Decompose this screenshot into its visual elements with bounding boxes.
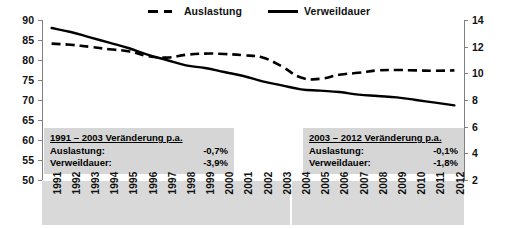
x-axis-tick-1993: 1993	[80, 181, 99, 225]
x-axis-tick-2004: 2004	[291, 181, 310, 225]
x-axis-tick-1997: 1997	[157, 181, 176, 225]
x-axis-tick-2007: 2007	[349, 181, 368, 225]
y-axis-left-tick-60: 60	[8, 135, 34, 146]
y-axis-right-tick-8: 8	[472, 95, 494, 106]
annotation-row: Auslastung: -0,1%	[309, 145, 458, 157]
x-axis-tick-1995: 1995	[119, 181, 138, 225]
y-axis-right-tick-14: 14	[472, 15, 494, 26]
x-axis-tick-2011: 2011	[426, 181, 445, 225]
x-axis-tick-1994: 1994	[100, 181, 119, 225]
y-axis-right-tick-10: 10	[472, 68, 494, 79]
y-axis-right-tick-4: 4	[472, 148, 494, 159]
annotation-row: Verweildauer: -3,9%	[50, 157, 228, 169]
x-axis-tick-2003: 2003	[272, 181, 291, 225]
annotation-row: Verweildauer: -1,8%	[309, 157, 458, 169]
solid-line-icon	[268, 6, 298, 17]
legend-item-verweildauer: Verweildauer	[268, 5, 370, 17]
y-axis-left-tick-55: 55	[8, 155, 34, 166]
y-axis-right-tick-2: 2	[472, 175, 494, 186]
y-axis-right-tick-12: 12	[472, 42, 494, 53]
chart-container: Auslastung Verweildauer 5055606570758085…	[0, 0, 518, 228]
chart-legend: Auslastung Verweildauer	[0, 3, 518, 19]
y-axis-left-tick-90: 90	[8, 15, 34, 26]
y-axis-left-tick-75: 75	[8, 75, 34, 86]
annotation-title-2003-2012: 2003 – 2012 Veränderung p.a.	[309, 132, 458, 143]
y-axis-right-line	[464, 20, 465, 180]
annotation-row: Auslastung: -0,7%	[50, 145, 228, 157]
x-axis-labels: 1991199219931994199519961997199819992000…	[42, 181, 464, 225]
annotation-box-2003-2012: 2003 – 2012 Veränderung p.a. Auslastung:…	[303, 128, 464, 174]
annotation-value: -0,1%	[407, 145, 458, 157]
annotation-title-1991-2003: 1991 – 2003 Veränderung p.a.	[50, 132, 228, 143]
x-axis-tick-1999: 1999	[196, 181, 215, 225]
y-axis-left-tick-80: 80	[8, 55, 34, 66]
annotation-value: -0,7%	[167, 145, 228, 157]
annotation-key: Auslastung:	[309, 145, 407, 157]
legend-label-verweildauer: Verweildauer	[304, 5, 370, 17]
annotation-key: Auslastung:	[50, 145, 167, 157]
line-verweildauer	[52, 28, 455, 105]
x-axis-tick-1991: 1991	[42, 181, 61, 225]
annotation-key: Verweildauer:	[309, 157, 407, 169]
x-axis-tick-2005: 2005	[311, 181, 330, 225]
annotation-key: Verweildauer:	[50, 157, 167, 169]
x-axis-tick-1992: 1992	[61, 181, 80, 225]
legend-item-auslastung: Auslastung	[148, 5, 242, 17]
x-axis-tick-2010: 2010	[407, 181, 426, 225]
x-axis-tick-2006: 2006	[330, 181, 349, 225]
x-axis-tick-label: 2012	[455, 171, 466, 194]
annotation-value: -3,9%	[167, 157, 228, 169]
y-axis-left-tick-65: 65	[8, 115, 34, 126]
x-axis-tick-2002: 2002	[253, 181, 272, 225]
y-axis-left-tick-50: 50	[8, 175, 34, 186]
legend-label-auslastung: Auslastung	[184, 5, 242, 17]
dashed-line-icon	[148, 6, 178, 17]
x-axis-tick-1998: 1998	[176, 181, 195, 225]
x-axis-tick-1996: 1996	[138, 181, 157, 225]
y-axis-left-tick-70: 70	[8, 95, 34, 106]
annotation-box-1991-2003: 1991 – 2003 Veränderung p.a. Auslastung:…	[44, 128, 234, 174]
annotation-value: -1,8%	[407, 157, 458, 169]
x-axis-tick-2008: 2008	[368, 181, 387, 225]
x-axis-tick-2012: 2012	[445, 181, 464, 225]
x-axis-tick-2001: 2001	[234, 181, 253, 225]
line-auslastung	[52, 44, 455, 80]
y-axis-right-tick-6: 6	[472, 122, 494, 133]
x-axis-tick-2009: 2009	[387, 181, 406, 225]
y-axis-left-tick-85: 85	[8, 35, 34, 46]
x-axis-tick-2000: 2000	[215, 181, 234, 225]
